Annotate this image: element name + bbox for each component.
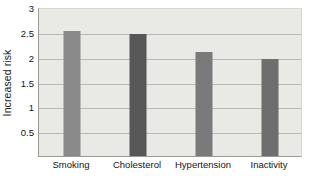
bar-slot [237, 9, 302, 156]
bar-slot [39, 9, 105, 156]
bar[interactable] [262, 59, 279, 156]
y-axis-tick-label: 2 [29, 52, 34, 63]
bar-slot [105, 9, 171, 156]
bar[interactable] [130, 34, 147, 156]
y-axis-title-text: Increased risk [1, 49, 13, 116]
y-axis-title: Increased risk [0, 8, 14, 157]
y-axis-tick-labels: 0.511.522.53 [14, 8, 37, 157]
x-axis-tick-labels: SmokingCholesterolHypertensionInactivity [38, 159, 302, 179]
bar[interactable] [64, 31, 81, 156]
y-axis-tick-label: 3 [29, 3, 34, 14]
x-axis-tick-label: Smoking [53, 159, 90, 170]
y-axis-tick-label: 2.5 [21, 27, 34, 38]
y-axis-tick-label: 1.5 [21, 77, 34, 88]
bar[interactable] [196, 52, 213, 156]
bar-slot [171, 9, 237, 156]
x-axis-tick-label: Inactivity [251, 159, 288, 170]
x-axis-tick-label: Cholesterol [113, 159, 161, 170]
y-axis-tick-label: 0.5 [21, 127, 34, 138]
bar-chart: Increased risk 0.511.522.53 SmokingChole… [0, 0, 310, 180]
y-axis-tick-label: 1 [29, 102, 34, 113]
bars-layer [39, 9, 301, 156]
plot-area [38, 8, 302, 157]
x-axis-tick-label: Hypertension [175, 159, 231, 170]
